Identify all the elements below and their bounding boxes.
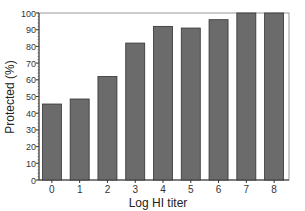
y-tick-label: 90 — [26, 25, 36, 35]
y-tick-label: 50 — [26, 92, 36, 102]
x-tick-label: 4 — [160, 184, 166, 195]
x-tick-label: 7 — [244, 184, 250, 195]
y-tick-label: 40 — [26, 109, 36, 119]
y-tick-label: 60 — [26, 75, 36, 85]
bar-5 — [181, 28, 200, 180]
y-tick-label: 80 — [26, 42, 36, 52]
bar-4 — [154, 26, 173, 180]
bar-6 — [209, 20, 228, 180]
bar-1 — [70, 99, 89, 180]
y-tick-label: 20 — [26, 142, 36, 152]
y-tick-label: 100 — [21, 9, 36, 19]
x-axis-label: Log HI titer — [129, 196, 188, 210]
y-tick-label: 0 — [31, 176, 36, 186]
x-tick-label: 2 — [105, 184, 111, 195]
bars — [42, 13, 283, 180]
x-tick-label: 1 — [77, 184, 83, 195]
bar-2 — [98, 76, 117, 180]
bar-8 — [265, 13, 284, 180]
y-tick-label: 70 — [26, 59, 36, 69]
x-tick-label: 6 — [216, 184, 222, 195]
bar-chart: 0102030405060708090100012345678 Log HI t… — [0, 0, 305, 211]
x-tick-label: 3 — [132, 184, 138, 195]
bar-7 — [237, 13, 256, 180]
y-tick-label: 10 — [26, 159, 36, 169]
y-axis-label: Protected (%) — [3, 60, 17, 133]
x-tick-label: 5 — [188, 184, 194, 195]
x-tick-label: 8 — [271, 184, 277, 195]
x-tick-label: 0 — [49, 184, 55, 195]
bar-3 — [126, 43, 145, 180]
y-tick-label: 30 — [26, 125, 36, 135]
bar-0 — [42, 104, 61, 180]
